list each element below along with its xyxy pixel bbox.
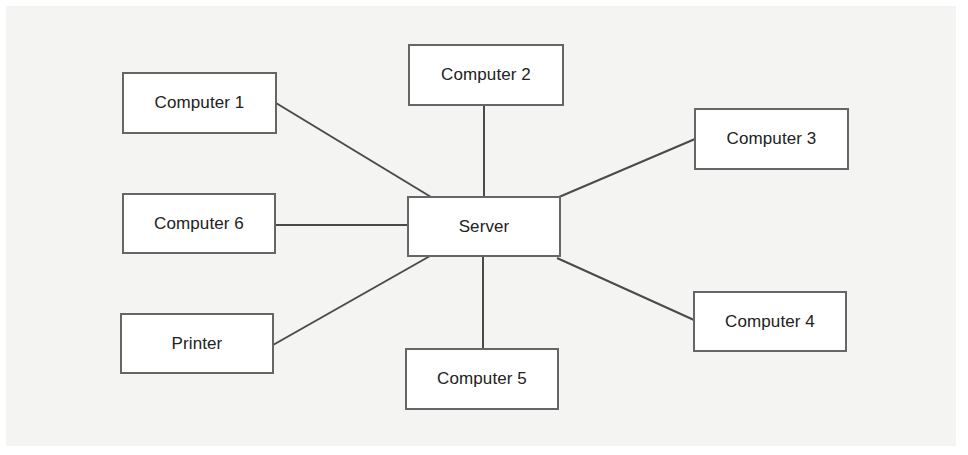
node-computer-1: Computer 1	[122, 72, 277, 134]
node-computer-3: Computer 3	[694, 108, 849, 170]
node-server: Server	[407, 196, 561, 257]
node-label: Computer 3	[727, 129, 817, 149]
node-label: Computer 4	[725, 312, 815, 332]
node-label: Computer 5	[437, 369, 527, 389]
node-label: Printer	[172, 334, 223, 354]
node-label: Computer 1	[155, 93, 245, 113]
node-computer-2: Computer 2	[408, 44, 564, 106]
node-label: Server	[459, 217, 510, 237]
node-label: Computer 2	[441, 65, 531, 85]
node-computer-5: Computer 5	[405, 348, 559, 410]
node-printer: Printer	[120, 313, 274, 374]
node-computer-4: Computer 4	[693, 291, 847, 352]
node-label: Computer 6	[154, 214, 244, 234]
node-computer-6: Computer 6	[122, 193, 276, 254]
